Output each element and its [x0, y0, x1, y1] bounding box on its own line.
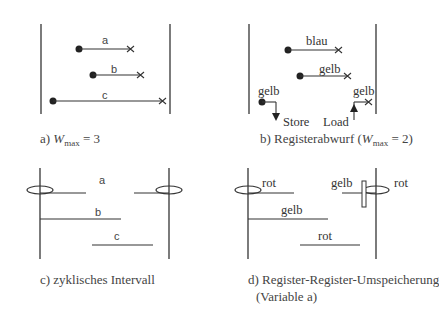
panel-d: rot gelb rot gelb rot d) Register-Regist…	[235, 168, 439, 304]
diagram-canvas: a b c a) Wmax = 3 blau gelb gelb Store g…	[0, 0, 439, 323]
panel-c: a b c c) zyklisches Intervall	[27, 168, 182, 287]
label-c: c	[114, 230, 120, 242]
panel-a: a b c a) Wmax = 3	[40, 24, 170, 148]
label-c: c	[102, 89, 108, 101]
register-move-marker	[362, 181, 366, 207]
caption-b: b) Registerabwurf (Wmax = 2)	[260, 131, 413, 148]
label-rot-1: rot	[262, 176, 276, 190]
label-a: a	[102, 34, 109, 46]
caption-c: c) zyklisches Intervall	[40, 272, 155, 287]
label-gelb-1: gelb	[331, 176, 353, 190]
label-load: Load	[323, 115, 349, 129]
caption-d-line1: d) Register-Register-Umspeicherung	[248, 272, 439, 287]
load-arrow-icon	[350, 104, 358, 112]
label-b: b	[95, 206, 101, 218]
label-a: a	[99, 174, 106, 186]
label-store: Store	[283, 115, 310, 129]
label-gelb-mid: gelb	[319, 62, 341, 76]
label-rot-right: rot	[394, 176, 408, 190]
panel-b: blau gelb gelb Store gelb Load b) Regist…	[249, 24, 413, 148]
label-gelb-left: gelb	[258, 84, 280, 98]
caption-a: a) Wmax = 3	[40, 131, 100, 148]
caption-d-line2: (Variable a)	[256, 289, 317, 304]
store-arrow-icon	[272, 113, 280, 121]
label-rot-2: rot	[318, 229, 332, 243]
label-blau: blau	[306, 34, 328, 48]
label-gelb-2: gelb	[281, 203, 303, 217]
label-b: b	[111, 63, 117, 75]
label-gelb-right: gelb	[353, 84, 375, 98]
